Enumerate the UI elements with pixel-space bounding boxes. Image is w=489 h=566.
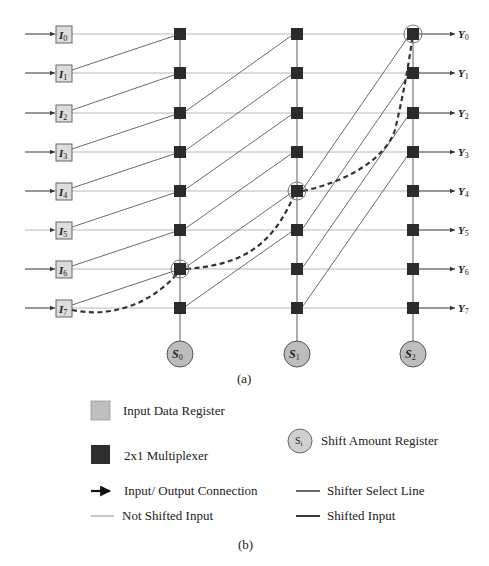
legend-input-data-register: Input Data Register: [123, 403, 225, 419]
legend-shift-amount-register: Shift Amount Register: [321, 433, 438, 449]
legend-shifted-input: Shifted Input: [327, 508, 395, 524]
legend-not-shifted-input: Not Shifted Input: [122, 508, 213, 524]
legend-shifter-select-line: Shifter Select Line: [327, 483, 424, 499]
subfigure-label-b: (b): [238, 537, 253, 553]
legend: Input Data Register 2x1 Multiplexer Shif…: [0, 0, 489, 566]
legend-io-connection: Input/ Output Connection: [124, 483, 258, 499]
legend-multiplexer: 2x1 Multiplexer: [124, 448, 208, 464]
